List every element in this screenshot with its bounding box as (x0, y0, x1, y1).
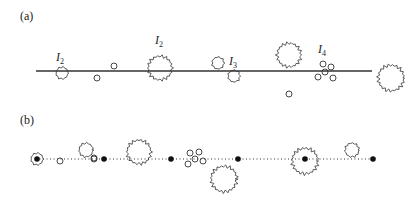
rough-circle (344, 143, 359, 158)
small-circle (94, 75, 100, 81)
rough-circle (148, 55, 174, 81)
rough-circle (79, 142, 94, 157)
center-dot (34, 156, 40, 162)
small-circle (57, 158, 63, 164)
small-circle (200, 158, 206, 164)
small-circle (315, 74, 321, 80)
small-circle (330, 75, 336, 81)
panel-a: I2I2I3I4 (36, 33, 404, 97)
rough-circle (212, 57, 225, 70)
panel-a-label: (a) (20, 9, 33, 23)
label: I2 (154, 33, 163, 49)
center-dot (302, 156, 308, 162)
label: I3 (228, 54, 237, 70)
rough-circle (210, 165, 238, 194)
center-dot (101, 156, 107, 162)
small-circle (328, 64, 334, 70)
center-dot (370, 156, 376, 162)
panel-b-label: (b) (20, 113, 34, 127)
small-circle (185, 161, 191, 167)
panel-b (31, 140, 376, 194)
rough-circle (56, 66, 69, 79)
center-dot (235, 156, 241, 162)
small-circle (196, 149, 202, 155)
center-dot (168, 156, 174, 162)
label: I2 (55, 50, 64, 66)
small-circle (187, 150, 193, 156)
small-circle (320, 61, 326, 67)
small-circle (111, 63, 117, 69)
small-circle (286, 91, 292, 97)
rough-circle (126, 140, 152, 166)
label: I4 (317, 42, 326, 58)
rough-circle (377, 64, 405, 92)
diagram: (a) (b) I2I2I3I4 (0, 0, 418, 200)
small-circle (322, 69, 328, 75)
rough-circle (275, 42, 301, 69)
